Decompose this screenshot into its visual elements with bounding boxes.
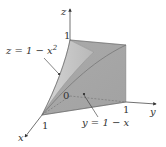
z-tick-1: 1 [64,30,70,41]
z-axis-label: z [60,6,67,17]
plane-surface-label: y = 1 − x [81,117,129,128]
x-tick-1: 1 [42,120,48,131]
plane-leader-dot [83,93,85,95]
parabolic-surface-label: z = 1 − x2 [5,44,58,56]
origin-label: 0 [63,90,69,101]
x-axis [25,115,42,137]
parabolic-leader-line [44,58,58,73]
parabolic-leader-dot [58,73,60,75]
y-axis-label: y [149,106,156,117]
y-tick-1: 1 [123,104,129,115]
solid-region-diagram: z y x 1 1 1 0 z = 1 − x2 y = 1 − x [0,0,166,147]
x-axis-label: x [18,132,24,143]
y-axis [126,102,156,104]
